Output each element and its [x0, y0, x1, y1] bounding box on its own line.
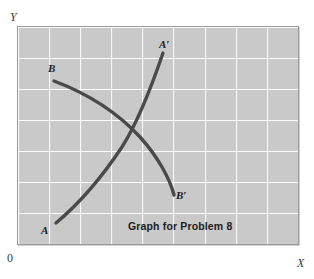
curve-aa-prime	[56, 53, 163, 223]
y-axis-label: Y	[10, 11, 17, 23]
curve-label-a: A	[41, 225, 48, 236]
figure-canvas: Y A A′ B B′ Graph for Problem 8 0 X	[0, 0, 314, 279]
figure-caption: Graph for Problem 8	[128, 220, 232, 232]
curve-label-a-prime: A′	[159, 39, 169, 50]
curve-layer	[18, 27, 298, 244]
curve-label-b-prime: B′	[176, 190, 186, 201]
origin-label: 0	[7, 252, 13, 264]
curve-bb-prime	[54, 81, 174, 195]
plot-area: A A′ B B′ Graph for Problem 8	[17, 26, 299, 245]
curve-label-b: B	[48, 63, 55, 74]
x-axis-label: X	[297, 257, 304, 269]
